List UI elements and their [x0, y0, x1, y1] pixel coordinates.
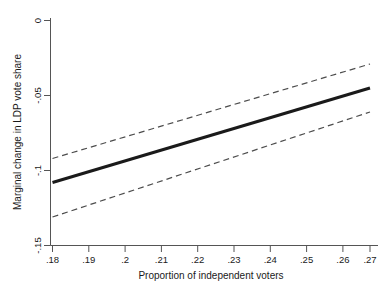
series-line-2 — [53, 64, 371, 159]
x-tick-labels: .18 .19 .2 .21 .22 .23 .24 .25 .26 .27 — [46, 254, 377, 265]
x-tick-label: .2 — [121, 254, 129, 265]
x-tick-label: .26 — [336, 254, 349, 265]
series-line-3 — [53, 112, 371, 217]
x-tick-label: .24 — [264, 254, 277, 265]
x-tick-label: .25 — [300, 254, 313, 265]
x-axis-title: Proportion of independent voters — [138, 270, 283, 281]
y-tick-label: -.1 — [32, 165, 43, 176]
series-line-1 — [53, 88, 371, 183]
y-tick-label: -.05 — [32, 87, 43, 103]
x-tick-label: .27 — [363, 254, 376, 265]
y-tick-label: 0 — [32, 18, 43, 23]
x-tick-label: .23 — [227, 254, 240, 265]
x-tick-label: .18 — [46, 254, 59, 265]
data-series-group — [53, 64, 371, 217]
y-axis-title: Marginal change in LDP vote share — [12, 54, 23, 210]
y-tick-marks — [44, 21, 51, 246]
x-tick-marks — [53, 246, 371, 253]
x-tick-label: .22 — [191, 254, 204, 265]
x-tick-label: .19 — [82, 254, 95, 265]
y-tick-label: -.15 — [32, 237, 43, 253]
chart-canvas: 0 -.05 -.1 -.15 .18 .19 .2 .21 .22 .23 .… — [0, 0, 389, 286]
chart-figure: 0 -.05 -.1 -.15 .18 .19 .2 .21 .22 .23 .… — [0, 0, 389, 286]
y-tick-labels: 0 -.05 -.1 -.15 — [32, 18, 43, 254]
x-tick-label: .21 — [155, 254, 168, 265]
